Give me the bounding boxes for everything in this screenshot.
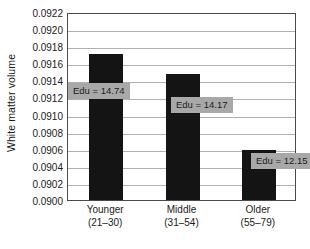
- y-tick-label: 0.0918: [32, 42, 63, 53]
- y-tick-label: 0.0908: [32, 127, 63, 138]
- bar-chart: White matter volume 0.09220.09200.09180.…: [0, 0, 310, 249]
- x-tick-label-range: (31–54): [164, 216, 198, 229]
- bar: [242, 150, 276, 200]
- y-axis-title-text: White matter volume: [5, 53, 17, 151]
- x-tick-label-range: (55–79): [241, 216, 275, 229]
- y-tick-label: 0.0912: [32, 93, 63, 104]
- y-axis-tick-labels: 0.09220.09200.09180.09160.09140.09120.09…: [22, 13, 66, 201]
- x-tick-label-name: Older: [246, 204, 270, 215]
- y-tick-label: 0.0920: [32, 25, 63, 36]
- y-tick-label: 0.0916: [32, 59, 63, 70]
- bar: [89, 54, 123, 200]
- x-tick-label-range: (21–30): [87, 216, 124, 229]
- y-tick-label: 0.0900: [32, 196, 63, 207]
- x-tick-label-name: Younger: [87, 204, 124, 215]
- x-tick-label: Middle(31–54): [164, 203, 198, 229]
- y-tick-label: 0.0904: [32, 161, 63, 172]
- y-tick-label: 0.0906: [32, 144, 63, 155]
- y-tick-label: 0.0902: [32, 178, 63, 189]
- y-tick-label: 0.0910: [32, 110, 63, 121]
- y-tick-label: 0.0914: [32, 76, 63, 87]
- x-tick-label: Younger(21–30): [87, 203, 124, 229]
- y-axis-title: White matter volume: [0, 0, 22, 205]
- x-tick-label-name: Middle: [167, 204, 196, 215]
- bar: [166, 74, 200, 200]
- x-tick-label: Older(55–79): [241, 203, 275, 229]
- bars-layer: [68, 14, 295, 200]
- y-tick-label: 0.0922: [32, 8, 63, 19]
- x-axis-tick-labels: Younger(21–30)Middle(31–54)Older(55–79): [67, 203, 296, 243]
- plot-area: [67, 13, 296, 201]
